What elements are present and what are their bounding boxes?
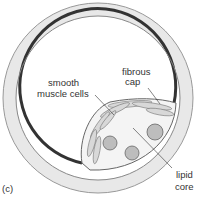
label-cap: cap — [125, 77, 140, 87]
label-core: core — [175, 182, 193, 192]
artery-cross-section — [0, 0, 200, 202]
panel-label: (c) — [2, 184, 13, 194]
label-muscle-cells: muscle cells — [37, 89, 89, 99]
label-smooth: smooth — [48, 78, 79, 88]
label-lipid: lipid — [176, 170, 193, 180]
